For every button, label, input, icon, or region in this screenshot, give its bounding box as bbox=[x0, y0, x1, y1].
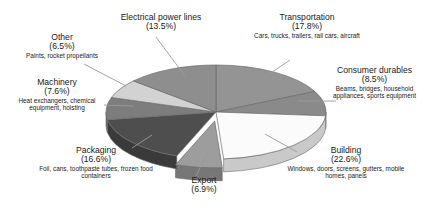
slice-label-machinery[interactable]: Machinery (7.6%) Heat exchangers, chemic… bbox=[2, 78, 112, 112]
slice-label-building[interactable]: Building (22.6%) Windows, doors, screens… bbox=[286, 146, 406, 180]
slice-label-packaging[interactable]: Packaging (16.6%) Foil, cans, toothpaste… bbox=[26, 146, 166, 180]
slice-label-export[interactable]: Export (6.9%) bbox=[168, 176, 240, 195]
slice-label-percent: (6.9%) bbox=[168, 185, 240, 194]
slice-label-percent: (6.5%) bbox=[4, 42, 120, 51]
slice-label-description: Windows, doors, screens, gutters, mobile… bbox=[286, 165, 406, 181]
slice-label-description: Heat exchangers, chemical equipment, hoi… bbox=[2, 97, 112, 113]
slice-label-description: Beams, bridges, household appliances, sp… bbox=[322, 85, 427, 101]
pie-chart-figure: Transportation (17.8%)Consumer durables … bbox=[0, 0, 427, 208]
slice-label-percent: (13.5%) bbox=[92, 22, 230, 31]
slice-label-transportation[interactable]: Transportation (17.8%) Cars, trucks, tra… bbox=[244, 13, 370, 39]
slice-label-other[interactable]: Other (6.5%) Paints, rocket propellants bbox=[4, 33, 120, 59]
slice-label-description: Paints, rocket propellants bbox=[4, 52, 120, 60]
slice-label-percent: (16.6%) bbox=[26, 155, 166, 164]
slice-label-percent: (7.6%) bbox=[2, 87, 112, 96]
slice-label-percent: (8.5%) bbox=[322, 75, 427, 84]
slice-label-percent: (17.8%) bbox=[244, 22, 370, 31]
slice-label-consumer-durables[interactable]: Consumer durables (8.5%) Beams, bridges,… bbox=[322, 66, 427, 100]
slice-label-percent: (22.6%) bbox=[286, 155, 406, 164]
slice-label-description: Foil, cans, toothpaste tubes, frozen foo… bbox=[26, 165, 166, 181]
slice-label-electrical-power-lines[interactable]: Electrical power lines (13.5%) bbox=[92, 13, 230, 32]
slice-label-description: Cars, trucks, trailers, rail cars, aircr… bbox=[244, 32, 370, 40]
